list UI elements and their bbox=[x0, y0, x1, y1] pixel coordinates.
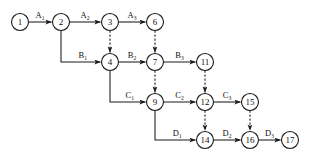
node-label-11: 11 bbox=[201, 57, 210, 67]
node-11: 11 bbox=[197, 54, 214, 71]
edge-label-e-d1: D1 bbox=[173, 128, 182, 140]
edge-label-e-c2: C2 bbox=[175, 90, 184, 102]
node-17: 17 bbox=[282, 132, 299, 149]
edge-label-e-c1: C1 bbox=[126, 90, 135, 102]
node-label-3: 3 bbox=[108, 17, 113, 27]
node-label-6: 6 bbox=[153, 17, 158, 27]
node-label-12: 12 bbox=[201, 97, 210, 107]
network-diagram: A1A2A3B1B2B3C1C2C3D1D2D3 123647119121514… bbox=[0, 0, 310, 159]
node-label-1: 1 bbox=[18, 17, 23, 27]
edge-label-e-d2: D2 bbox=[223, 128, 232, 140]
edge-label-e-b1: B1 bbox=[79, 50, 88, 62]
edge-label-e-b3: B3 bbox=[175, 50, 184, 62]
node-label-9: 9 bbox=[153, 97, 158, 107]
edge-label-e-a2: A2 bbox=[81, 10, 90, 22]
node-14: 14 bbox=[197, 132, 214, 149]
node-12: 12 bbox=[197, 94, 214, 111]
node-label-4: 4 bbox=[108, 57, 113, 67]
node-15: 15 bbox=[242, 94, 259, 111]
node-4: 4 bbox=[102, 54, 119, 71]
node-9: 9 bbox=[147, 94, 164, 111]
node-6: 6 bbox=[147, 14, 164, 31]
edge-label-e-c3: C3 bbox=[223, 90, 232, 102]
node-1: 1 bbox=[12, 14, 29, 31]
edge-label-e-b2: B2 bbox=[128, 50, 137, 62]
node-label-16: 16 bbox=[246, 135, 256, 145]
node-7: 7 bbox=[147, 54, 164, 71]
diagram-canvas: A1A2A3B1B2B3C1C2C3D1D2D3 123647119121514… bbox=[0, 0, 310, 159]
edge-label-e-d3: D3 bbox=[265, 128, 274, 140]
edges-layer bbox=[29, 22, 281, 140]
edge-label-e-a3: A3 bbox=[128, 10, 137, 22]
node-label-2: 2 bbox=[59, 17, 64, 27]
edge-label-e-a1: A1 bbox=[36, 10, 45, 22]
node-label-7: 7 bbox=[153, 57, 158, 67]
node-label-14: 14 bbox=[201, 135, 211, 145]
node-16: 16 bbox=[242, 132, 259, 149]
node-3: 3 bbox=[102, 14, 119, 31]
node-label-15: 15 bbox=[246, 97, 256, 107]
node-2: 2 bbox=[53, 14, 70, 31]
node-label-17: 17 bbox=[286, 135, 296, 145]
